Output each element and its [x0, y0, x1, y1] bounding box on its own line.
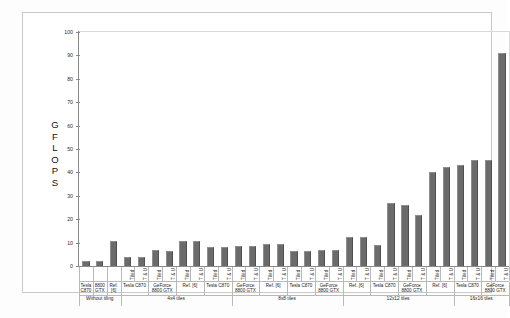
device-label-line: Tesla C870 [287, 283, 315, 288]
bar [96, 261, 103, 266]
device-label: GeForce8800 GTX [398, 283, 426, 294]
bar-sub-label: T & U [365, 268, 370, 280]
device-label: Tesla C870 [204, 283, 232, 288]
group-cell-separator [343, 295, 344, 306]
y-axis-tick-label: 20 [55, 216, 73, 222]
bar [152, 250, 159, 266]
bar-sub-label: T & U [393, 268, 398, 280]
label-cell-separator [176, 267, 177, 281]
bar [124, 257, 131, 266]
bar-sub-label: Tiled [157, 270, 162, 280]
bar-sub-label: Tiled [268, 270, 273, 280]
label-cell-separator [384, 267, 385, 281]
label-cell-separator [467, 267, 468, 281]
device-cell-separator [398, 282, 399, 295]
device-cell-separator [343, 282, 344, 295]
bar-sub-label: T & U [310, 268, 315, 280]
bar [249, 246, 256, 266]
label-cell-separator [398, 267, 399, 281]
label-cell-separator [162, 267, 163, 281]
device-cell-separator [454, 282, 455, 295]
device-label: Ref. [6] [426, 283, 454, 288]
y-axis-title: GFLOPS [49, 119, 61, 189]
device-label: GeForce8800 GTX [481, 283, 509, 294]
bar-sub-label: T & U [338, 268, 343, 280]
bar [277, 244, 284, 266]
label-cell-separator [148, 267, 149, 281]
device-label-line: 8800 GTX [315, 288, 343, 293]
bar-sub-label: Tiled [241, 270, 246, 280]
device-cell-separator [370, 282, 371, 295]
y-axis-tick-label: 50 [55, 146, 73, 152]
bar [485, 160, 492, 266]
group-cell-separator [121, 295, 122, 306]
device-label: Ref. [6] [343, 283, 371, 288]
device-label-line: 8800 GTX [232, 288, 260, 293]
bar [443, 167, 450, 266]
y-axis-tick-label: 30 [55, 193, 73, 199]
device-label-line: Ref. [6] [343, 283, 371, 288]
bar [415, 215, 422, 266]
bar-sub-label: Tiled [407, 270, 412, 280]
y-axis-tick-label: 60 [55, 123, 73, 129]
bar [138, 257, 145, 266]
bar [304, 251, 311, 266]
group-cell-separator [232, 295, 233, 306]
device-label-line: Ref. [6] [259, 283, 287, 288]
device-label-line: 8800 GTX [481, 288, 509, 293]
device-label: Tesla C870 [370, 283, 398, 288]
device-label: Tesla C870 [454, 283, 482, 288]
bar-sub-label: Tiled [324, 270, 329, 280]
bar [387, 203, 394, 266]
bar-sub-label: Tiled [130, 270, 135, 280]
label-cell-separator [79, 267, 80, 281]
y-axis-tick-label: 40 [55, 169, 73, 175]
y-axis-title-letter: S [49, 177, 61, 189]
group-cell-separator [454, 295, 455, 306]
label-cell-separator [495, 267, 496, 281]
device-label-line: GTX [93, 288, 107, 293]
y-axis-title-letter: O [49, 154, 61, 166]
bar [110, 241, 117, 266]
bar [318, 250, 325, 266]
bar-sub-label: Tiled [351, 270, 356, 280]
bar [235, 246, 242, 266]
label-cell-separator [301, 267, 302, 281]
device-cell-separator [315, 282, 316, 295]
bar [346, 237, 353, 266]
device-label-line: Tesla C870 [370, 283, 398, 288]
label-cell-separator [356, 267, 357, 281]
label-band-divider [79, 281, 509, 282]
bar-sub-label: Tiled [296, 270, 301, 280]
device-cell-separator [204, 282, 205, 295]
device-label-line: C870 [79, 288, 93, 293]
device-cell-separator [107, 282, 108, 295]
device-cell-separator [426, 282, 427, 295]
bar-sub-label: T & U [449, 268, 454, 280]
bar-sub-label: T & U [476, 268, 481, 280]
bar [332, 250, 339, 266]
device-label-line: Tesla C870 [454, 283, 482, 288]
y-axis-title-letter: F [49, 131, 61, 143]
bar [166, 251, 173, 266]
label-cell-separator [481, 267, 482, 281]
device-label-line: Tesla C870 [121, 283, 149, 288]
tile-group-label: 4x4 tiles [121, 296, 232, 302]
bar [401, 205, 408, 266]
bar [457, 165, 464, 266]
device-label: Tesla C870 [287, 283, 315, 288]
device-label-line: 8800 GTX [148, 288, 176, 293]
device-label-line: Tesla C870 [204, 283, 232, 288]
tile-group-label: 16x16 tiles [454, 296, 509, 302]
y-axis-tick-label: 0 [55, 263, 73, 269]
bar [360, 237, 367, 266]
bar-sub-label: Tiled [435, 270, 440, 280]
device-cell-separator [481, 282, 482, 295]
y-axis-tick-label: 10 [55, 240, 73, 246]
device-label-line: Ref. [6] [426, 283, 454, 288]
device-label: Tesla C870 [121, 283, 149, 288]
bar [221, 247, 228, 266]
bar-sub-label: Tiled [490, 270, 495, 280]
label-cell-separator [107, 267, 108, 281]
